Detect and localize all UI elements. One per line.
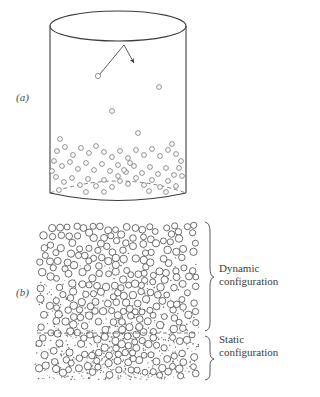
particle [50,265,56,271]
particle [53,250,59,256]
particle [140,171,145,176]
stipple-dot [44,284,45,285]
particle [120,276,127,283]
stipple-dot [113,278,115,280]
particle [82,252,89,259]
stipple-dot [181,331,182,332]
stipple-dot [72,312,73,313]
stipple-dot [125,369,126,370]
particle [75,365,82,372]
stipple-dot [64,280,65,281]
stipple-dot [93,350,95,352]
particle [132,255,139,262]
stipple-dot [53,378,54,379]
stipple-dot [189,361,191,363]
particle [75,252,81,258]
particle [122,299,129,306]
particle [69,288,76,295]
stipple-dot [174,342,175,343]
particle [66,349,73,356]
particle [192,283,199,290]
stipple-dot [67,344,69,346]
particle [147,189,152,194]
particle [58,137,63,142]
stipple-dot [75,286,77,288]
stipple-dot [88,377,89,378]
stipple-dot [98,378,100,380]
stipple-dot [109,327,111,329]
particle [47,242,53,248]
stipple-dot [103,353,105,355]
stipple-dot [103,379,104,380]
stipple-dot [52,310,53,311]
particle [102,150,107,155]
stipple-dot [63,354,64,355]
particle [83,291,89,297]
stipple-dot [139,378,140,379]
particle [142,153,147,158]
particle [92,298,99,305]
stipple-dot [147,363,148,364]
stipple-dot [118,378,119,379]
stipple-dot [51,294,52,295]
particle [191,354,198,361]
stipple-dot [110,346,112,348]
particle [64,224,70,230]
dynamic-configuration-line-1: Dynamic [219,262,259,274]
particle [189,230,195,236]
stipple-dot [74,379,75,380]
stipple-dot [147,283,149,285]
stipple-dot [146,379,147,380]
particle [94,282,101,289]
particle [193,274,199,280]
particle [150,272,156,278]
stipple-dot [113,369,114,370]
particle [156,172,161,177]
stipple-dot [153,287,155,289]
stipple-dot [92,351,93,352]
particle [119,319,126,326]
stipple-dot [165,339,167,341]
particle [113,227,119,233]
stipple-dot [72,338,73,339]
particle [62,318,69,325]
stipple-dot [124,366,125,367]
stipple-dot [120,265,122,267]
particle [174,301,181,308]
particle [175,235,183,243]
particle [70,176,75,181]
stipple-dot [91,344,92,345]
particle [150,279,156,285]
stipple-dot [177,313,179,315]
particle [153,303,160,310]
particle [164,190,169,195]
particle [49,224,56,231]
particle [136,323,143,330]
particle [115,290,121,296]
particle [156,321,163,328]
stipple-dot [60,304,61,305]
stipple-dot [157,336,158,337]
stipple-dot [170,280,172,282]
particle [70,321,78,329]
stipple-dot [122,334,123,335]
stipple-dot [86,373,87,374]
stipple-dot [173,377,174,378]
particle [54,275,60,281]
particle [191,222,197,228]
stipple-dot [122,316,123,317]
particle [152,240,159,247]
stipple-dot [174,266,175,267]
particle [184,290,190,296]
particle [41,351,48,358]
particle [89,275,96,282]
particle [130,235,137,242]
stipple-dot [164,378,165,379]
particle [167,301,174,308]
particle [101,344,108,351]
stipple-dot [131,338,133,340]
stipple-dot [127,375,128,376]
particle [134,176,139,181]
particle [86,177,91,182]
particle [79,146,84,151]
